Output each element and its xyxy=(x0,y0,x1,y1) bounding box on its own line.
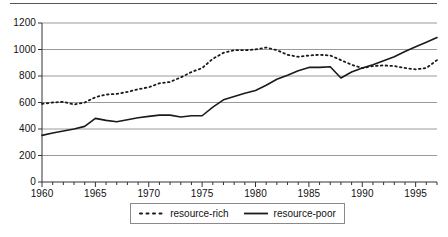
legend-label-resource-poor: resource-poor xyxy=(274,208,336,219)
chart-legend: resource-rich resource-poor xyxy=(130,203,345,224)
x-tick-group xyxy=(42,182,437,187)
dotted-line-swatch-icon xyxy=(139,209,165,218)
gridline-group xyxy=(42,23,437,156)
x-axis-tick-label: 1980 xyxy=(236,188,276,199)
y-axis-tick-label: 1000 xyxy=(2,44,36,55)
x-axis-tick-label: 1990 xyxy=(342,188,382,199)
legend-item-resource-poor: resource-poor xyxy=(243,208,336,219)
line-chart-canvas xyxy=(0,0,448,237)
x-axis-tick-label: 1985 xyxy=(289,188,329,199)
solid-line-swatch-icon xyxy=(243,209,269,218)
legend-item-resource-rich: resource-rich xyxy=(139,208,228,219)
x-axis-tick-label: 1965 xyxy=(75,188,115,199)
legend-label-resource-rich: resource-rich xyxy=(170,208,228,219)
x-axis-tick-label: 1995 xyxy=(396,188,436,199)
x-axis-tick-label: 1960 xyxy=(22,188,62,199)
chart-figure: 020040060080010001200 196019651970197519… xyxy=(0,0,448,237)
y-axis-tick-label: 400 xyxy=(2,123,36,134)
y-tick-group xyxy=(38,23,42,182)
y-axis-tick-label: 1200 xyxy=(2,17,36,28)
y-axis-tick-label: 800 xyxy=(2,70,36,81)
y-axis-tick-label: 200 xyxy=(2,150,36,161)
y-axis-tick-label: 600 xyxy=(2,97,36,108)
x-axis-tick-label: 1975 xyxy=(182,188,222,199)
series-line-resource-poor xyxy=(42,38,437,136)
x-axis-tick-label: 1970 xyxy=(129,188,169,199)
y-axis-tick-label: 0 xyxy=(2,176,36,187)
